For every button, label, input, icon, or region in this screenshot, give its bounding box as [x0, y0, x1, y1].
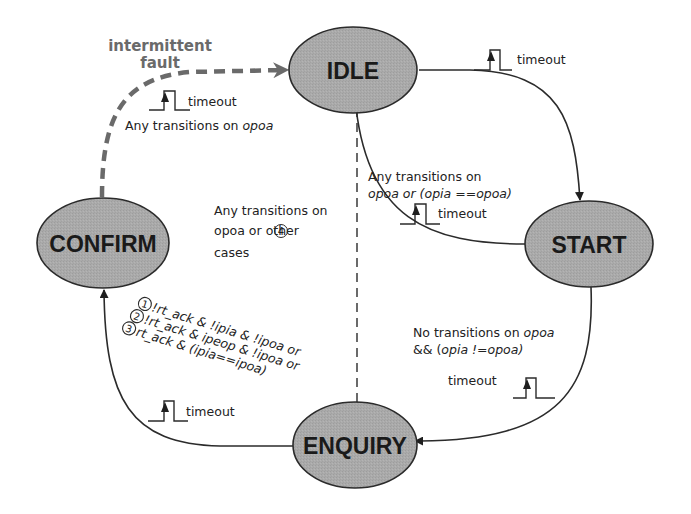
state-enquiry-label: ENQUIRY	[303, 433, 407, 459]
timeout-label: timeout	[188, 94, 237, 109]
svg-text:3: 3	[124, 323, 133, 335]
pulse-icon	[148, 401, 188, 421]
pulse-icon	[474, 50, 512, 70]
enquiry-idle-line2: opoa or other	[214, 223, 300, 238]
enquiry-confirm-conditions: 1 !rt_ack & !ipia & !ipoa or 2 !rt_ack &…	[121, 293, 307, 387]
confirm-idle-condition: Any transitions on opoa	[125, 118, 273, 133]
start-idle-line2: opoa or (opia ==opoa)	[368, 186, 512, 201]
fault-label-line1: intermittent	[108, 37, 212, 55]
pulse-icon	[400, 204, 440, 224]
state-idle-label: IDLE	[327, 58, 379, 84]
fault-label: intermittent fault	[108, 37, 212, 72]
state-enquiry[interactable]: ENQUIRY	[293, 402, 417, 488]
start-enquiry-condition: No transitions on opoa && (opia !=opoa) …	[413, 325, 555, 398]
state-start[interactable]: START	[525, 201, 653, 287]
svg-text:1: 1	[140, 298, 149, 310]
pulse-icon	[513, 378, 555, 398]
timeout-pulse-confirm-idle: timeout	[149, 91, 237, 110]
timeout-label: timeout	[517, 52, 566, 67]
fault-label-line2: fault	[140, 54, 180, 72]
state-confirm-label: CONFIRM	[49, 231, 156, 257]
start-enquiry-line1: No transitions on opoa	[413, 325, 554, 340]
start-idle-condition: Any transitions on opoa or (opia ==opoa)…	[368, 169, 512, 224]
timeout-label: timeout	[186, 404, 235, 419]
state-start-label: START	[552, 232, 627, 258]
state-idle[interactable]: IDLE	[289, 27, 417, 113]
diagram-svg: IDLE START ENQUIRY CONFIRM intermittent …	[0, 0, 691, 514]
enquiry-idle-line3: cases	[214, 245, 249, 260]
edge-confirm-to-idle-fault	[102, 70, 286, 197]
state-confirm[interactable]: CONFIRM	[37, 198, 169, 288]
edge-start-to-enquiry	[415, 287, 591, 441]
enquiry-idle-line1: Any transitions on	[214, 203, 327, 218]
pulse-icon	[149, 91, 190, 110]
timeout-pulse-idle-start: timeout	[474, 50, 566, 70]
enquiry-idle-condition: Any transitions on opoa or other 4 cases	[214, 203, 327, 260]
timeout-pulse-enquiry-confirm: timeout	[148, 401, 235, 421]
svg-text:4: 4	[278, 226, 284, 237]
start-enquiry-line2: && (opia !=opoa)	[413, 342, 523, 357]
timeout-label: timeout	[438, 206, 487, 221]
svg-text:2: 2	[132, 310, 141, 322]
timeout-label: timeout	[448, 373, 497, 388]
state-diagram: IDLE START ENQUIRY CONFIRM intermittent …	[0, 0, 691, 514]
start-idle-line1: Any transitions on	[368, 169, 481, 184]
